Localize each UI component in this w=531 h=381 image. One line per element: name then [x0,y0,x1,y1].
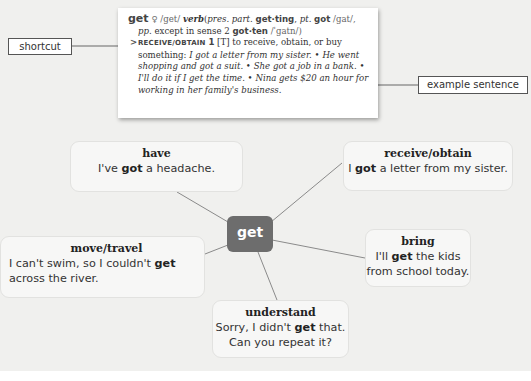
node-keyword: get [155,257,176,270]
grammar-code: [T] [217,37,229,47]
example-1: I got a letter from my sister. [189,50,312,60]
bullet: • [359,61,364,71]
node-text: a headache. [143,162,215,175]
shortcut-callout: shortcut [8,38,72,55]
center-node-get: get [227,216,273,252]
example-4: I'll do it if I get the time. [138,73,245,83]
node-title: move/travel [9,241,204,256]
dictionary-entry-card: get ♀ /get/ verb(pres. part. get·ting, p… [118,8,378,118]
sense-1: > RECEIVE/OBTAIN 1 [T] to receive, obtai… [128,37,370,96]
node-keyword: get [392,250,413,263]
past-label: pt. [300,14,312,24]
part-of-speech: verb [183,14,204,24]
node-title: understand [213,305,348,320]
headword: get [128,12,149,25]
bullet: • [248,73,253,83]
sense-number: 1 [208,37,214,47]
shortcut-label: RECEIVE/OBTAIN [138,39,206,47]
node-receive-obtain: receive/obtain I got a letter from my si… [343,141,513,191]
node-text: a letter from my sister. [376,162,508,175]
bullet: • [315,50,320,60]
pp-ipa: /ˈgatn/) [271,26,302,36]
node-title: bring [366,234,470,249]
node-title: have [71,146,242,161]
pres-part: get·ting [256,14,295,24]
past-ipa: /gat/, [333,14,356,24]
node-text: I've [98,162,121,175]
example-3: She got a job in a bank. [254,61,357,71]
node-text: I'll [375,250,391,263]
node-bring: bring I'll get the kids from school toda… [365,229,471,287]
pronunciation: /get/ [160,14,180,24]
pp-note: except in sense 2 [154,26,229,36]
past-form: got [314,14,330,24]
pp-label: pp. [138,26,152,36]
pres-part-label: pres. part. [207,14,253,24]
example-sentence-callout: example sentence [418,76,528,94]
node-understand: understand Sorry, I didn't get that. Can… [212,300,349,358]
entry-header: get ♀ /get/ verb(pres. part. get·ting, p… [128,13,370,26]
node-text: I can't swim, so I couldn't [9,257,155,270]
node-move-travel: move/travel I can't swim, so I couldn't … [0,236,205,298]
node-keyword: get [295,321,316,334]
node-have: have I've got a headache. [70,141,243,192]
node-keyword: got [355,162,376,175]
sense-arrow-icon: > [130,37,137,49]
node-keyword: got [121,162,142,175]
node-text: Sorry, I didn't [216,321,295,334]
bullet: • [246,61,251,71]
entry-forms-line: pp. except in sense 2 got·ten /ˈgatn/) [128,26,370,38]
pp-form: got·ten [232,26,267,36]
node-title: receive/obtain [344,146,512,161]
key-icon: ♀ [151,14,157,24]
node-text: across the river. [9,272,99,285]
